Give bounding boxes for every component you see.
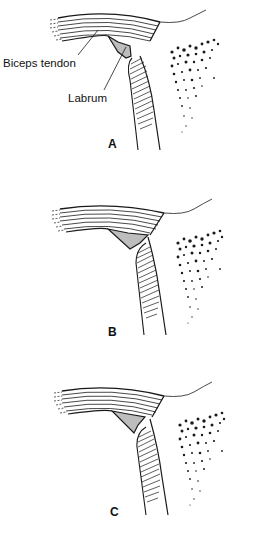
bone-trabeculae	[178, 412, 225, 506]
glenoid-cartilage-shape	[128, 56, 161, 150]
labrum-shape	[108, 36, 131, 58]
glenoid-cartilage-shape	[136, 237, 166, 335]
panel-c-drawing	[0, 365, 268, 536]
biceps-tendon-label: Biceps tendon	[3, 57, 76, 69]
biceps-tendon-shape	[62, 382, 212, 417]
panel-letter-b: B	[108, 325, 117, 339]
panel-a: Biceps tendon Labrum A	[0, 0, 268, 180]
shoulder-labrum-figure: Biceps tendon Labrum A	[0, 0, 268, 536]
labrum-label: Labrum	[68, 92, 107, 104]
biceps-tendon-shape	[60, 199, 212, 235]
panel-a-drawing	[0, 0, 268, 180]
panel-c: C	[0, 365, 268, 536]
bone-trabeculae	[176, 230, 223, 324]
panel-b-drawing	[0, 185, 268, 365]
glenoid-cartilage-shape	[137, 419, 168, 515]
panel-letter-a: A	[108, 137, 117, 151]
panel-letter-c: C	[110, 505, 119, 519]
biceps-tendon-shape	[58, 10, 206, 41]
labrum-shape	[112, 411, 145, 433]
panel-b: B	[0, 185, 268, 365]
biceps-tendon-leader-line	[78, 30, 98, 55]
labrum-leader-line	[104, 47, 126, 90]
bone-trabeculae	[170, 39, 219, 133]
